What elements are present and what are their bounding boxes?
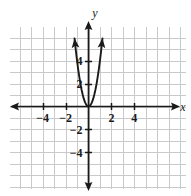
y-tick-label: −4 [70, 146, 83, 160]
x-axis-label: x [179, 100, 186, 114]
y-tick-label: 4 [77, 54, 83, 68]
coordinate-plane-chart: −4−224 42−2−4 x y [0, 0, 191, 196]
graph-figure: −4−224 42−2−4 x y [0, 0, 191, 196]
x-tick-label: 2 [108, 111, 114, 125]
x-tick-label: 4 [131, 111, 137, 125]
y-tick-label: 2 [77, 77, 83, 91]
x-tick-label: −4 [36, 111, 49, 125]
y-axis-label: y [91, 6, 98, 20]
y-tick-label: −2 [70, 123, 83, 137]
chart-background [0, 0, 191, 196]
